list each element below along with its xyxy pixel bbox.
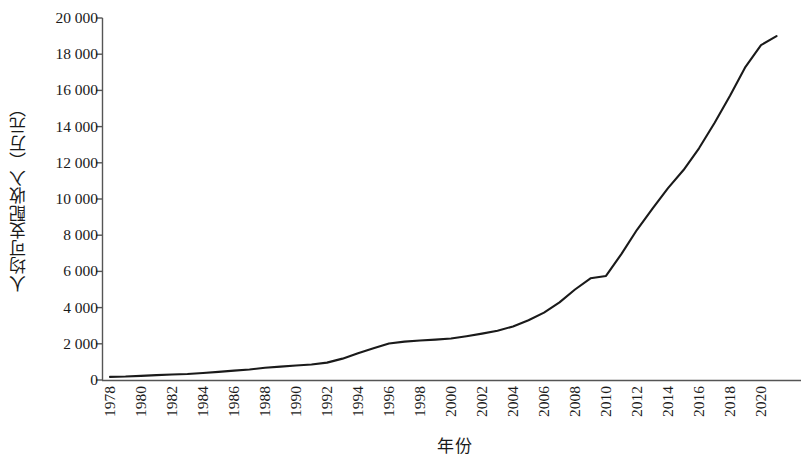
chart-figure: 人均可支配收入（万元） 20 00018 00016 00014 00012 0… xyxy=(0,0,806,458)
x-axis-tick-label: 1984 xyxy=(195,386,211,430)
x-axis-tick-label: 2006 xyxy=(536,386,552,430)
x-axis-tick-label: 1990 xyxy=(288,386,304,430)
x-axis-tick-label: 2008 xyxy=(567,386,583,430)
x-axis-tick-label-text: 2010 xyxy=(598,386,614,417)
x-axis-tick-label-text: 1988 xyxy=(257,386,273,417)
x-axis-tick-label: 1978 xyxy=(102,386,118,430)
x-axis-tick-label-text: 2018 xyxy=(722,386,738,417)
x-axis-tick-labels: 1978198019821984198619881990199219941996… xyxy=(0,0,806,458)
x-axis-tick-label: 2010 xyxy=(598,386,614,430)
x-axis-tick-label: 1980 xyxy=(133,386,149,430)
x-axis-tick-label-text: 1984 xyxy=(195,386,211,417)
x-axis-tick-label-text: 1998 xyxy=(412,386,428,417)
x-axis-tick-label-text: 1980 xyxy=(133,386,149,417)
x-axis-title-text: 年份 xyxy=(437,436,473,456)
x-axis-tick-label-text: 2016 xyxy=(691,386,707,417)
x-axis-tick-label-text: 1992 xyxy=(319,386,335,417)
x-axis-tick-label: 1986 xyxy=(226,386,242,430)
x-axis-tick-label: 2020 xyxy=(753,386,769,430)
x-axis-tick-label: 1998 xyxy=(412,386,428,430)
x-axis-tick-label-text: 2000 xyxy=(443,386,459,417)
x-axis-tick-label: 2000 xyxy=(443,386,459,430)
x-axis-tick-label-text: 1994 xyxy=(350,386,366,417)
x-axis-tick-label: 2014 xyxy=(660,386,676,430)
x-axis-title: 年份 xyxy=(0,432,806,457)
x-axis-tick-label: 2012 xyxy=(629,386,645,430)
x-axis-tick-label-text: 2012 xyxy=(629,386,645,417)
x-axis-tick-label: 1988 xyxy=(257,386,273,430)
x-axis-tick-label: 2016 xyxy=(691,386,707,430)
x-axis-tick-label-text: 2014 xyxy=(660,386,676,417)
x-axis-tick-label-text: 2008 xyxy=(567,386,583,417)
x-axis-tick-label-text: 2006 xyxy=(536,386,552,417)
x-axis-tick-label-text: 2004 xyxy=(505,386,521,417)
x-axis-tick-label: 1994 xyxy=(350,386,366,430)
x-axis-tick-label-text: 1996 xyxy=(381,386,397,417)
x-axis-tick-label: 1992 xyxy=(319,386,335,430)
x-axis-tick-label: 2004 xyxy=(505,386,521,430)
x-axis-tick-label: 2002 xyxy=(474,386,490,430)
x-axis-tick-label: 2018 xyxy=(722,386,738,430)
x-axis-tick-label-text: 1990 xyxy=(288,386,304,417)
x-axis-tick-label: 1996 xyxy=(381,386,397,430)
x-axis-tick-label-text: 1986 xyxy=(226,386,242,417)
x-axis-tick-label-text: 2002 xyxy=(474,386,490,417)
x-axis-tick-label-text: 1978 xyxy=(102,386,118,417)
x-axis-tick-label: 1982 xyxy=(164,386,180,430)
x-axis-tick-label-text: 2020 xyxy=(753,386,769,417)
x-axis-tick-label-text: 1982 xyxy=(164,386,180,417)
